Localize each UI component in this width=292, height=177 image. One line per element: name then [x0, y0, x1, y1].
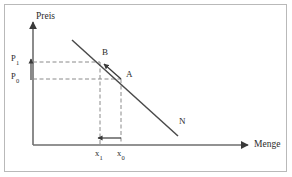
point-label-a: A: [126, 70, 133, 79]
curve-label-n: N: [179, 117, 186, 126]
price-tick-p0: P0: [11, 72, 19, 83]
quantity-tick-x1-base: x: [95, 148, 99, 158]
demand-curve: [72, 40, 178, 136]
quantity-tick-x0-base: x: [117, 148, 121, 158]
quantity-tick-x1-sub: 1: [100, 154, 103, 161]
y-axis-label: Preis: [36, 12, 55, 22]
quantity-tick-x1: x1: [95, 149, 103, 160]
quantity-tick-x0-sub: 0: [122, 154, 125, 161]
price-tick-p1-sub: 1: [16, 59, 19, 66]
quantity-tick-x0: x0: [117, 149, 125, 160]
demand-curve-graphic: [0, 0, 292, 177]
figure-canvas: Preis Menge P1 P0 x1 x0 B A N: [0, 0, 292, 177]
x-axis-label: Menge: [254, 140, 280, 150]
point-label-b: B: [102, 48, 108, 57]
price-tick-p0-sub: 0: [16, 77, 19, 84]
price-tick-p1: P1: [11, 54, 19, 65]
